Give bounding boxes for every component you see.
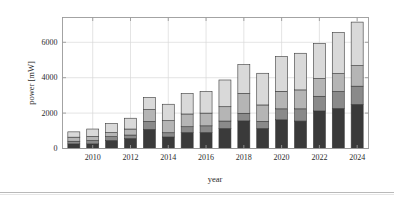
bar-segment <box>200 91 212 113</box>
x-tick-label: 2014 <box>160 153 176 162</box>
bar-segment <box>143 110 155 122</box>
stacked-bar-chart: 0200040006000 20102012201420162018202020… <box>0 0 394 212</box>
x-tick-label: 2022 <box>311 153 327 162</box>
bar-segment <box>181 127 193 133</box>
y-tick-label: 6000 <box>42 38 58 47</box>
bar-segment <box>332 32 344 73</box>
bar-2017 <box>219 80 231 149</box>
bar-segment <box>313 111 325 149</box>
bar-segment <box>238 93 250 113</box>
bar-segment <box>295 90 307 109</box>
bar-segment <box>68 144 80 149</box>
bar-segment <box>87 141 99 144</box>
bar-segment <box>351 66 363 87</box>
bar-segment <box>276 120 288 149</box>
bar-segment <box>219 107 231 121</box>
bar-2015 <box>181 93 193 148</box>
footer-divider <box>0 192 394 193</box>
bar-segment <box>68 132 80 137</box>
bar-2009 <box>68 132 80 149</box>
bar-segment <box>332 74 344 92</box>
bar-segment <box>313 96 325 111</box>
bar-segment <box>313 79 325 97</box>
bar-segment <box>106 133 118 137</box>
bar-segment <box>125 118 137 129</box>
x-tick-label: 2012 <box>123 153 139 162</box>
bar-segment <box>87 129 99 136</box>
bar-segment <box>162 133 174 137</box>
bar-segment <box>219 121 231 128</box>
x-tick-label: 2010 <box>85 153 101 162</box>
x-tick-label: 2016 <box>198 153 214 162</box>
bar-2011 <box>106 123 118 148</box>
bar-segment <box>257 121 269 128</box>
bar-segment <box>257 73 269 105</box>
bar-2013 <box>143 97 155 148</box>
bar-2019 <box>257 73 269 148</box>
bar-segment <box>332 91 344 108</box>
bar-segment <box>295 53 307 90</box>
bar-2016 <box>200 91 212 148</box>
bar-segment <box>351 104 363 148</box>
bar-segment <box>238 113 250 121</box>
bar-segment <box>162 104 174 120</box>
figure-container: 0200040006000 20102012201420162018202020… <box>0 0 394 212</box>
bar-2024 <box>351 22 363 148</box>
bar-segment <box>313 43 325 78</box>
bar-segment <box>276 91 288 109</box>
y-axis-title: power [mW] <box>26 61 36 105</box>
bar-segment <box>276 109 288 120</box>
x-tick-label: 2018 <box>236 153 252 162</box>
bar-segment <box>238 65 250 94</box>
bar-segment <box>68 141 80 144</box>
bar-segment <box>68 137 80 141</box>
bar-segment <box>238 121 250 149</box>
bar-segment <box>143 97 155 109</box>
bar-2023 <box>332 32 344 148</box>
x-axis-title: year <box>208 174 223 184</box>
bar-2012 <box>125 118 137 148</box>
x-tick-label: 2024 <box>349 153 365 162</box>
bar-segment <box>295 109 307 121</box>
bar-2018 <box>238 65 250 149</box>
y-tick-label: 2000 <box>42 109 58 118</box>
bar-segment <box>125 129 137 135</box>
bar-segment <box>181 93 193 114</box>
bar-segment <box>87 136 99 140</box>
bar-segment <box>295 121 307 148</box>
bar-segment <box>351 22 363 66</box>
bar-segment <box>257 105 269 121</box>
bar-segment <box>125 135 137 139</box>
bar-segment <box>143 121 155 129</box>
bar-segment <box>200 113 212 126</box>
bar-segment <box>257 128 269 148</box>
bar-segment <box>351 86 363 104</box>
bar-segment <box>143 129 155 148</box>
bar-segment <box>162 121 174 133</box>
bar-segment <box>276 56 288 91</box>
bar-segment <box>200 126 212 133</box>
y-tick-label: 4000 <box>42 73 58 82</box>
bar-segment <box>332 108 344 148</box>
bar-segment <box>219 80 231 107</box>
footer-divider-soft <box>0 194 394 195</box>
bar-segment <box>106 141 118 149</box>
bar-segment <box>219 128 231 148</box>
bar-segment <box>106 123 118 132</box>
bar-2014 <box>162 104 174 148</box>
bar-2020 <box>276 56 288 148</box>
y-tick-label: 0 <box>54 144 58 153</box>
bar-segment <box>181 114 193 127</box>
bar-segment <box>181 133 193 149</box>
bar-2021 <box>295 53 307 148</box>
x-tick-label: 2020 <box>274 153 290 162</box>
bar-2022 <box>313 43 325 148</box>
bar-segment <box>106 137 118 141</box>
